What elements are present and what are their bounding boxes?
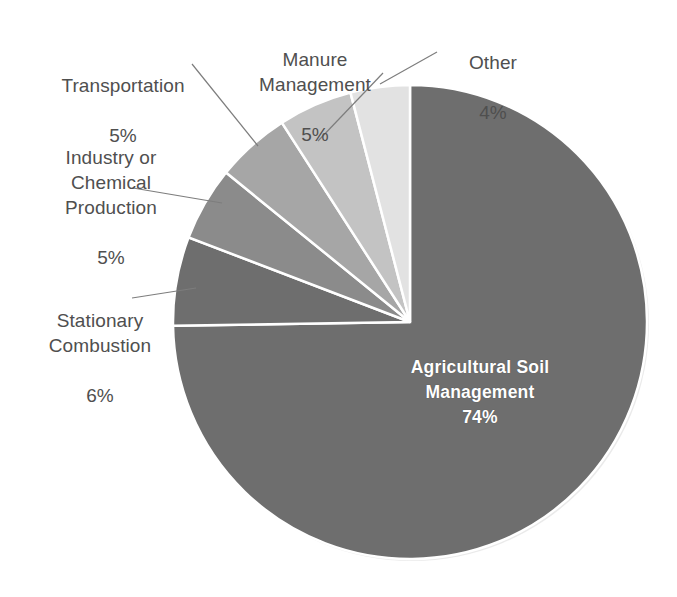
pie-label-transportation-name: Transportation [28, 73, 218, 98]
pie-label-industry-name: Industry or Chemical Production [26, 145, 196, 220]
pie-label-agricultural-name: Agricultural Soil Management [380, 355, 580, 405]
pie-label-industry-percent: 5% [26, 245, 196, 270]
pie-label-other: Other 4% [438, 25, 548, 150]
pie-chart: Transportation 5% Industry or Chemical P… [0, 0, 677, 597]
pie-label-stationary-name: Stationary Combustion [14, 308, 186, 358]
pie-label-other-name: Other [438, 50, 548, 75]
pie-label-industry-or-chemical-production: Industry or Chemical Production 5% [26, 120, 196, 296]
pie-label-agricultural-soil-management: Agricultural Soil Management 74% [380, 355, 580, 430]
pie-label-stationary-percent: 6% [14, 383, 186, 408]
pie-label-other-percent: 4% [438, 100, 548, 125]
pie-label-manure-percent: 5% [232, 122, 398, 147]
pie-label-agricultural-percent: 74% [380, 405, 580, 430]
pie-label-stationary-combustion: Stationary Combustion 6% [14, 283, 186, 433]
pie-label-manure-management: Manure Management 5% [232, 22, 398, 172]
pie-label-manure-name: Manure Management [232, 47, 398, 97]
